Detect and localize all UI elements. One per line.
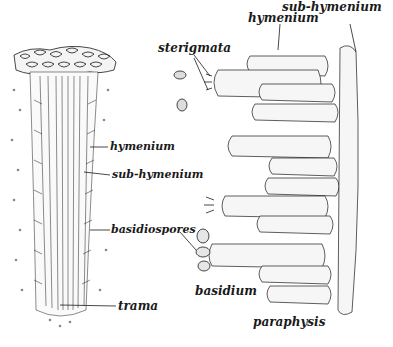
label-trama: trama: [118, 300, 158, 312]
gill-diagram: hymenium sub-hymenium basidiospores tram…: [0, 0, 393, 347]
label-basidiospores: basidiospores: [111, 224, 196, 235]
free-spores-icon: [174, 71, 187, 111]
label-basidium: basidium: [195, 285, 257, 297]
sterigmata-icon: [204, 74, 214, 213]
label-paraphysis: paraphysis: [253, 316, 325, 328]
gill-body-icon: [30, 72, 98, 316]
label-hymenium-left: hymenium: [110, 141, 175, 152]
label-subhymenium-left: sub-hymenium: [112, 169, 203, 180]
label-subhymenium-right: sub-hymenium: [282, 1, 382, 13]
label-sterigmata: sterigmata: [158, 42, 231, 54]
leader-line-hymenium-right: [278, 24, 280, 50]
gill-cap-cells-icon: [14, 46, 116, 74]
leader-line-sterigmata: [194, 55, 210, 90]
basidium-spores-icon: [196, 229, 210, 271]
hymenium-cells-icon: [209, 46, 358, 315]
